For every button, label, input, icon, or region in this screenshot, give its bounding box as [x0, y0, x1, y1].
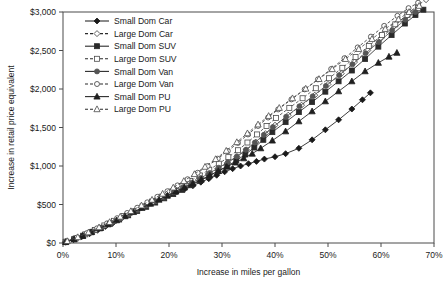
- marker-square: [363, 56, 368, 61]
- marker-circle: [363, 51, 368, 56]
- x-tick-label-0: 0%: [57, 250, 70, 260]
- x-tick-label-3: 30%: [213, 250, 230, 260]
- marker-diamond: [253, 158, 259, 164]
- x-tick-label-1: 10%: [107, 250, 124, 260]
- marker-triangle: [309, 108, 315, 114]
- legend-item-7[interactable]: Large Dom PU: [85, 104, 171, 114]
- x-tick-label-4: 40%: [266, 250, 283, 260]
- marker-circle: [297, 104, 302, 109]
- legend-label-0: Small Dom Car: [114, 16, 172, 26]
- marker-square: [283, 120, 288, 125]
- x-tick-label-5: 50%: [319, 250, 336, 260]
- marker-diamond: [222, 169, 228, 175]
- marker-square: [264, 123, 269, 128]
- marker-triangle: [394, 50, 400, 56]
- marker-circle: [323, 83, 328, 88]
- marker-square: [254, 132, 259, 137]
- marker-circle: [95, 69, 100, 74]
- marker-triangle: [94, 106, 100, 112]
- y-tick-label-5: $2,500: [30, 46, 56, 56]
- legend-label-7: Large Dom PU: [114, 104, 171, 114]
- marker-triangle: [336, 88, 342, 94]
- legend-item-0[interactable]: Small Dom Car: [85, 16, 172, 26]
- y-tick-label-6: $3,000: [30, 7, 56, 17]
- marker-square: [287, 105, 292, 110]
- marker-triangle: [269, 137, 275, 143]
- marker-diamond: [272, 154, 278, 160]
- marker-circle: [413, 10, 418, 15]
- marker-square: [323, 89, 328, 94]
- marker-square: [310, 100, 315, 105]
- legend-item-5[interactable]: Large Dom Van: [85, 79, 174, 89]
- legend-label-4: Small Dom Van: [114, 67, 173, 77]
- x-axis-title: Increase in miles per gallon: [197, 267, 301, 277]
- marker-triangle: [386, 53, 392, 59]
- marker-square: [296, 110, 301, 115]
- marker-square: [300, 96, 305, 101]
- marker-diamond: [94, 31, 100, 37]
- marker-triangle: [362, 68, 368, 74]
- legend-label-5: Large Dom Van: [114, 79, 174, 89]
- y-tick-label-3: $1,500: [30, 123, 56, 133]
- legend-label-2: Small Dom SUV: [114, 41, 176, 51]
- marker-square: [389, 33, 394, 38]
- marker-circle: [403, 17, 408, 22]
- marker-square: [313, 86, 318, 91]
- x-tick-label-2: 20%: [160, 250, 177, 260]
- marker-square: [235, 148, 240, 153]
- legend-item-6[interactable]: Small Dom PU: [85, 92, 170, 102]
- marker-circle: [350, 62, 355, 67]
- marker-square: [336, 79, 341, 84]
- marker-circle: [310, 94, 315, 99]
- legend: Small Dom CarLarge Dom CarSmall Dom SUVL…: [85, 16, 177, 114]
- marker-square: [376, 44, 381, 49]
- marker-square: [261, 137, 266, 142]
- marker-square: [274, 115, 279, 120]
- legend-label-3: Large Dom SUV: [114, 54, 177, 64]
- marker-triangle: [322, 98, 328, 104]
- marker-circle: [337, 73, 342, 78]
- marker-square: [327, 76, 332, 81]
- marker-square: [270, 130, 275, 135]
- legend-item-3[interactable]: Large Dom SUV: [85, 54, 177, 64]
- y-tick-label-0: $0: [47, 238, 57, 248]
- line-chart: 0%10%20%30%40%50%60%70%$0$500$1,000$1,50…: [0, 0, 448, 289]
- marker-triangle: [296, 118, 302, 124]
- marker-circle: [243, 147, 248, 152]
- marker-diamond: [230, 166, 236, 172]
- legend-label-1: Large Dom Car: [114, 29, 173, 39]
- marker-triangle: [375, 60, 381, 66]
- marker-square: [245, 140, 250, 145]
- marker-circle: [376, 40, 381, 45]
- marker-square: [95, 44, 100, 49]
- marker-diamond: [423, 0, 429, 3]
- marker-circle: [252, 140, 257, 145]
- marker-diamond: [94, 18, 100, 24]
- marker-diamond: [296, 145, 302, 151]
- marker-diamond: [283, 151, 289, 157]
- chart-figure: 0%10%20%30%40%50%60%70%$0$500$1,000$1,50…: [0, 0, 448, 289]
- y-tick-label-2: $1,000: [30, 161, 56, 171]
- marker-circle: [284, 114, 289, 119]
- marker-circle: [95, 82, 100, 87]
- marker-triangle: [258, 145, 264, 151]
- legend-item-4[interactable]: Small Dom Van: [85, 67, 173, 77]
- marker-square: [380, 33, 385, 38]
- marker-square: [353, 55, 358, 60]
- marker-circle: [261, 132, 266, 137]
- marker-square: [366, 43, 371, 48]
- y-axis-title: Increase in retail price equivalent: [6, 65, 16, 190]
- y-tick-label-1: $500: [37, 200, 56, 210]
- marker-square: [95, 56, 100, 61]
- marker-diamond: [246, 161, 252, 167]
- x-tick-label-6: 60%: [372, 250, 389, 260]
- marker-square: [252, 145, 257, 150]
- marker-diamond: [238, 163, 244, 169]
- legend-item-2[interactable]: Small Dom SUV: [85, 41, 176, 51]
- marker-diamond: [261, 156, 267, 162]
- marker-circle: [390, 28, 395, 33]
- legend-label-6: Small Dom PU: [114, 92, 170, 102]
- marker-square: [349, 68, 354, 73]
- legend-item-1[interactable]: Large Dom Car: [85, 29, 173, 39]
- marker-circle: [234, 154, 239, 159]
